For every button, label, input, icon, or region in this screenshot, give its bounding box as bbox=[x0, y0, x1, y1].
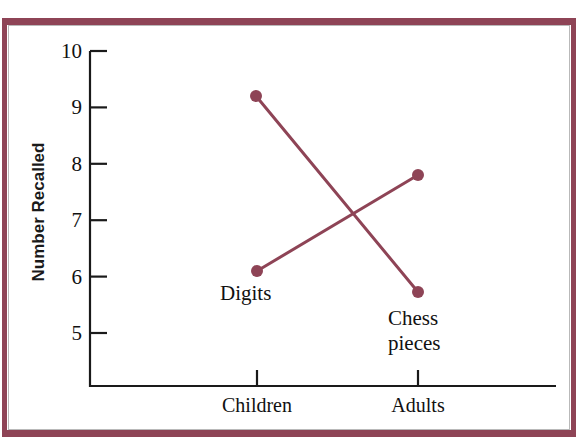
y-tick-label-9: 9 bbox=[72, 95, 83, 119]
x-tick-label-children: Children bbox=[222, 394, 292, 416]
series-label-chess-line2: pieces bbox=[388, 331, 440, 355]
y-tick-label-6: 6 bbox=[72, 265, 83, 289]
x-tick-label-adults: Adults bbox=[391, 394, 445, 416]
y-tick-label-10: 10 bbox=[61, 39, 82, 63]
data-point-digits-adults bbox=[412, 169, 424, 181]
y-tick-label-5: 5 bbox=[72, 321, 83, 345]
series-label-digits: Digits bbox=[220, 281, 271, 305]
series-line-chess-pieces bbox=[256, 96, 418, 292]
data-point-digits-children bbox=[251, 265, 263, 277]
data-point-chess-adults bbox=[412, 286, 424, 298]
data-point-chess-children bbox=[250, 90, 262, 102]
figure-frame: 10 9 8 7 6 5 Number Recalled Children Ad… bbox=[0, 0, 578, 440]
series-line-digits bbox=[257, 175, 418, 271]
series-label-chess-line1: Chess bbox=[388, 306, 438, 330]
y-tick-label-8: 8 bbox=[72, 152, 83, 176]
y-tick-label-7: 7 bbox=[72, 208, 83, 232]
line-chart: 10 9 8 7 6 5 Number Recalled Children Ad… bbox=[0, 0, 578, 440]
y-axis-title: Number Recalled bbox=[29, 143, 48, 282]
